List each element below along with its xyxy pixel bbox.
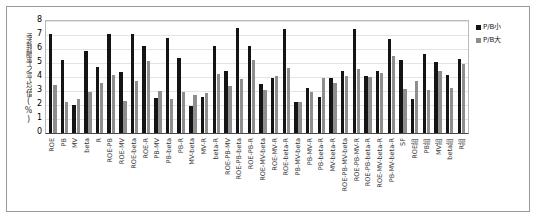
bar xyxy=(318,97,321,133)
legend-item[interactable]: P/B小 xyxy=(476,21,532,34)
x-label-cell: SF xyxy=(398,136,410,198)
bar xyxy=(458,59,461,133)
bar xyxy=(123,101,126,133)
bar xyxy=(147,61,150,133)
bar xyxy=(217,74,220,133)
bar xyxy=(275,76,278,133)
chart-screenshot: 季報酬率之平均值(%) 012345678 ROEPBMVbetaRROE-PB… xyxy=(0,0,536,218)
x-label-cell: MV-beta xyxy=(187,136,199,198)
bar xyxy=(450,88,453,133)
bar-group xyxy=(374,21,386,133)
bar xyxy=(72,105,75,133)
x-label-cell: ROE-MV-R xyxy=(269,136,281,198)
bar xyxy=(77,99,80,133)
x-tick-label: PB組 xyxy=(424,138,431,153)
x-label-cell: ROE組 xyxy=(409,136,421,198)
plot-area xyxy=(45,20,469,134)
x-tick-label: SF xyxy=(400,138,407,146)
y-tick-label: 0 xyxy=(31,128,42,136)
bar xyxy=(96,67,99,134)
x-tick-label: MV-beta-R xyxy=(330,138,337,172)
bar xyxy=(306,88,309,134)
bar xyxy=(388,39,391,133)
bar xyxy=(112,75,115,133)
bar xyxy=(240,79,243,133)
bar-group xyxy=(257,21,269,133)
bar xyxy=(236,28,239,133)
bar xyxy=(193,95,196,134)
x-label-cell: MV-beta-R xyxy=(327,136,339,198)
bar-group xyxy=(152,21,164,133)
bar-group xyxy=(94,21,106,133)
bar xyxy=(368,77,371,133)
bar xyxy=(201,97,204,133)
x-tick-label: PB-beta-R xyxy=(318,138,325,170)
bar xyxy=(263,90,266,133)
x-tick-label: ROE-MV-beta-R xyxy=(377,138,384,188)
bar xyxy=(205,93,208,133)
bar xyxy=(166,38,169,133)
bar xyxy=(135,81,138,134)
x-tick-label: ROE-PB xyxy=(107,138,114,162)
x-label-cell: ROE-beta-R xyxy=(280,136,292,198)
bar xyxy=(298,102,301,134)
x-tick-label: PB-beta xyxy=(166,138,173,163)
x-label-cell: ROE-PB-MV-R xyxy=(351,136,363,198)
x-tick-label: ROE-MV xyxy=(119,138,126,164)
x-tick-label: R xyxy=(95,138,102,143)
bar xyxy=(446,75,449,133)
bar-group xyxy=(421,21,433,133)
bar xyxy=(170,99,173,133)
x-tick-label: MV-beta xyxy=(189,138,196,165)
x-tick-label: ROE-PB-MV-beta xyxy=(342,138,349,192)
x-tick-label: PB-MV xyxy=(154,138,161,159)
x-label-cell: ROE xyxy=(46,136,58,198)
bar-group xyxy=(409,21,421,133)
bar-group xyxy=(269,21,281,133)
bar xyxy=(224,71,227,133)
legend-label: P/B小 xyxy=(483,24,501,31)
x-label-cell: R xyxy=(93,136,105,198)
x-label-cell: beta xyxy=(81,136,93,198)
bar xyxy=(427,90,430,133)
bar-group xyxy=(175,21,187,133)
x-tick-label: MV xyxy=(72,138,79,148)
bar xyxy=(158,91,161,133)
bar xyxy=(49,34,52,133)
bar xyxy=(154,98,157,133)
bar xyxy=(403,89,406,133)
x-label-cell: MV組 xyxy=(433,136,445,198)
bar xyxy=(100,83,103,133)
x-tick-label: ROE-PB-MV-R xyxy=(353,138,360,181)
bar-group xyxy=(432,21,444,133)
x-label-cell: PB-R xyxy=(175,136,187,198)
x-tick-label: beta xyxy=(84,138,91,153)
bar-group xyxy=(362,21,374,133)
y-tick-label: 4 xyxy=(31,72,42,80)
x-label-cell: PB-MV-beta xyxy=(292,136,304,198)
bar-group xyxy=(339,21,351,133)
x-tick-label: ROE-PB-beta xyxy=(236,138,243,179)
bar xyxy=(310,92,313,133)
x-label-cell: PB xyxy=(58,136,70,198)
y-tick-label: 3 xyxy=(31,86,42,94)
bar xyxy=(333,83,336,133)
x-label-cell: ROE-PB-beta-R xyxy=(362,136,374,198)
x-label-cell: ROE-beta xyxy=(128,136,140,198)
bar-group xyxy=(327,21,339,133)
x-label-cell: MV-R xyxy=(198,136,210,198)
bar-group xyxy=(397,21,409,133)
legend-label: P/B大 xyxy=(483,37,501,44)
x-label-cell: PB-beta-R xyxy=(316,136,328,198)
x-tick-label: ROE組 xyxy=(412,138,419,159)
y-axis-tick-labels: 012345678 xyxy=(31,14,42,136)
bar xyxy=(380,73,383,133)
x-tick-label: PB-MV-R xyxy=(306,138,313,165)
legend-item[interactable]: P/B大 xyxy=(476,34,532,47)
bar xyxy=(294,102,297,133)
bar xyxy=(423,54,426,133)
x-label-cell: ROE-PB xyxy=(105,136,117,198)
x-label-cell: PB組 xyxy=(421,136,433,198)
x-tick-label: ROE-R xyxy=(142,138,149,159)
x-tick-label: ROE-MV-R xyxy=(271,138,278,171)
